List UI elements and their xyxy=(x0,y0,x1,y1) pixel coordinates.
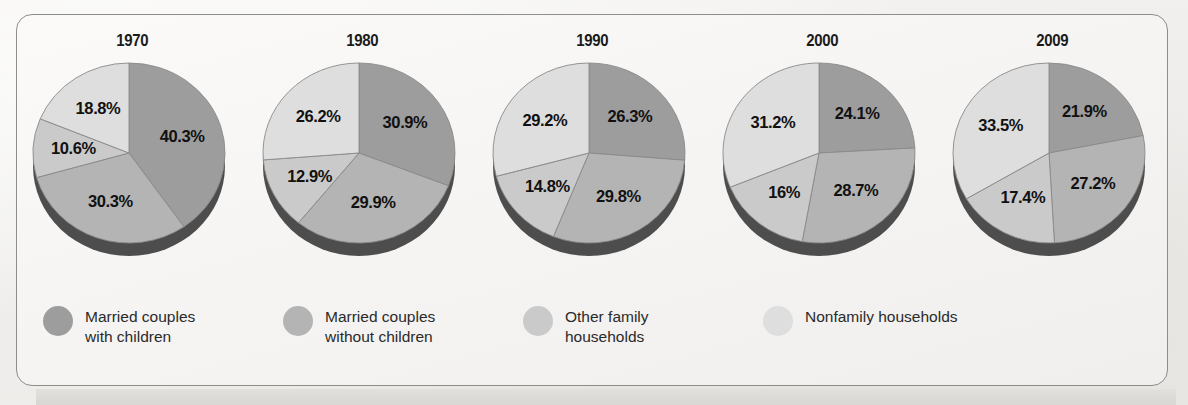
pie-graphic: 26.3%29.8%14.8%29.2% xyxy=(489,57,695,263)
pie-year-label: 1970 xyxy=(116,31,148,51)
legend-swatch-icon xyxy=(283,306,313,336)
legend-item-nonfamily[interactable]: Nonfamily households xyxy=(763,305,1023,336)
legend-label: Other family households xyxy=(565,305,649,347)
bottom-gray-band xyxy=(36,389,1176,405)
pie-year-label: 1980 xyxy=(346,31,378,51)
legend-label: Married couples with children xyxy=(85,305,195,347)
pie-graphic: 21.9%27.2%17.4%33.5% xyxy=(949,57,1155,263)
pie-slice-label: 40.3% xyxy=(160,127,206,145)
pie-slice-label: 28.7% xyxy=(834,181,880,199)
legend-swatch-icon xyxy=(763,306,793,336)
legend-swatch-icon xyxy=(43,306,73,336)
pie-year-label: 1990 xyxy=(576,31,608,51)
legend-label: Married couples without children xyxy=(325,305,435,347)
pie-graphic: 30.9%29.9%12.9%26.2% xyxy=(259,57,465,263)
legend-item-married_with_children[interactable]: Married couples with children xyxy=(43,305,283,347)
chart-legend: Married couples with childrenMarried cou… xyxy=(43,305,1143,367)
pie-slice-label: 30.9% xyxy=(383,113,429,131)
figure-panel: 197040.3%30.3%10.6%18.8%198030.9%29.9%12… xyxy=(16,14,1168,386)
pie-slice-label: 18.8% xyxy=(76,99,122,117)
legend-item-married_without_children[interactable]: Married couples without children xyxy=(283,305,523,347)
pie-slice-label: 29.9% xyxy=(351,193,397,211)
pie-year-label: 2000 xyxy=(806,31,838,51)
pie-slice-label: 27.2% xyxy=(1071,174,1117,192)
pie-year-label: 2009 xyxy=(1036,31,1068,51)
pie-graphic: 24.1%28.7%16%31.2% xyxy=(719,57,925,263)
pie-chart-2009: 200921.9%27.2%17.4%33.5% xyxy=(943,31,1161,263)
pie-slice-label: 31.2% xyxy=(750,113,796,131)
pie-slice-label: 21.9% xyxy=(1062,102,1108,120)
pie-graphic: 40.3%30.3%10.6%18.8% xyxy=(29,57,235,263)
pie-chart-1970: 197040.3%30.3%10.6%18.8% xyxy=(23,31,241,263)
pie-slice-label: 33.5% xyxy=(978,116,1024,134)
pie-slice-label: 24.1% xyxy=(835,104,881,122)
pie-slice-label: 29.2% xyxy=(522,111,568,129)
pie-slice-label: 10.6% xyxy=(51,139,97,157)
legend-swatch-icon xyxy=(523,306,553,336)
pie-charts-row: 197040.3%30.3%10.6%18.8%198030.9%29.9%12… xyxy=(17,31,1167,293)
pie-slice-label: 16% xyxy=(768,183,801,201)
pie-slice-label: 14.8% xyxy=(525,177,571,195)
pie-slice-label: 17.4% xyxy=(1000,188,1046,206)
pie-chart-1980: 198030.9%29.9%12.9%26.2% xyxy=(253,31,471,263)
legend-label: Nonfamily households xyxy=(805,305,958,327)
pie-slice-label: 29.8% xyxy=(596,187,642,205)
pie-slice-label: 12.9% xyxy=(287,167,333,185)
pie-chart-2000: 200024.1%28.7%16%31.2% xyxy=(713,31,931,263)
pie-chart-1990: 199026.3%29.8%14.8%29.2% xyxy=(483,31,701,263)
pie-slice-label: 30.3% xyxy=(88,192,134,210)
pie-slice-label: 26.2% xyxy=(296,107,342,125)
legend-item-other_family[interactable]: Other family households xyxy=(523,305,763,347)
pie-slice-label: 26.3% xyxy=(608,107,654,125)
